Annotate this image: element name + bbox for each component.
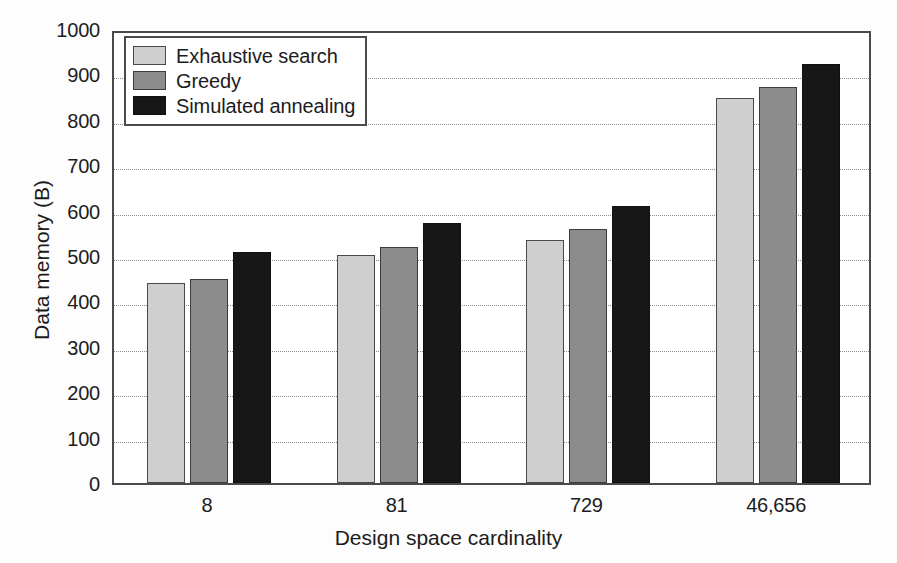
bar (612, 206, 650, 483)
bar (569, 229, 607, 483)
legend-item-greedy: Greedy (133, 68, 355, 93)
x-tick-label: 81 (327, 494, 467, 517)
x-tick-label: 8 (137, 494, 277, 517)
bar (233, 252, 271, 483)
gridline (114, 260, 869, 261)
legend-swatch-icon-greedy (133, 71, 166, 90)
bar (526, 240, 564, 483)
bar-chart: 01002003004005006007008009001000 Data me… (0, 0, 897, 563)
bar (759, 87, 797, 483)
bar (802, 64, 840, 483)
gridline (114, 215, 869, 216)
gridline (114, 169, 869, 170)
x-axis-title: Design space cardinality (0, 526, 897, 550)
y-tick-label: 100 (42, 429, 100, 449)
legend-item-exhaustive-search: Exhaustive search (133, 43, 355, 68)
bar (716, 98, 754, 483)
bar (147, 283, 185, 483)
legend-label-greedy: Greedy (176, 71, 241, 91)
bar (190, 279, 228, 483)
y-tick-label: 900 (42, 65, 100, 85)
x-tick-label: 46,656 (706, 494, 846, 517)
legend-swatch-icon-exhaustive-search (133, 46, 166, 65)
legend: Exhaustive search Greedy Simulated annea… (124, 36, 367, 126)
x-tick-label: 729 (516, 494, 656, 517)
legend-item-simulated-annealing: Simulated annealing (133, 93, 355, 118)
y-tick-label: 0 (42, 474, 100, 494)
bar (380, 247, 418, 483)
legend-swatch-icon-simulated-annealing (133, 96, 166, 115)
legend-label-exhaustive-search: Exhaustive search (176, 46, 338, 66)
bar (423, 223, 461, 483)
legend-label-simulated-annealing: Simulated annealing (176, 96, 355, 116)
bar (337, 255, 375, 483)
y-axis-title: Data memory (B) (30, 110, 54, 410)
y-tick-label: 1000 (42, 20, 100, 40)
